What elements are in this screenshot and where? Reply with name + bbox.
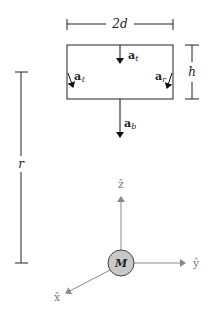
height-dimension: h	[185, 45, 199, 99]
x-axis-label: x̂	[54, 291, 61, 304]
acceleration-left-arrow: aℓ	[68, 70, 85, 87]
height-label: h	[188, 65, 196, 79]
svg-text:ab: ab	[124, 117, 136, 131]
width-label: 2d	[111, 17, 128, 31]
mass-label: M	[114, 257, 128, 270]
z-axis-label: ẑ	[118, 178, 124, 191]
acceleration-right-arrow: ar	[155, 70, 172, 88]
width-dimension: 2d	[67, 17, 173, 31]
tidal-diagram: 2d h at aℓ ar ab r ẑ	[0, 0, 214, 315]
svg-text:at: at	[128, 49, 139, 63]
svg-text:ar: ar	[155, 70, 167, 84]
distance-dimension: r	[14, 72, 28, 263]
acceleration-bottom-arrow: ab	[120, 99, 136, 137]
acceleration-top-arrow: at	[120, 45, 139, 63]
y-axis-label: ŷ	[192, 257, 200, 270]
svg-text:aℓ: aℓ	[74, 70, 85, 84]
coordinate-axes: ẑ ŷ x̂	[54, 178, 200, 304]
central-mass: M	[108, 250, 134, 276]
